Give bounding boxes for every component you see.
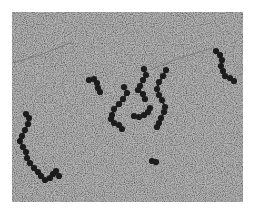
nucleosome-bead: [17, 138, 23, 144]
nucleosome-bead: [56, 173, 62, 179]
nucleosome-bead: [124, 90, 130, 96]
nucleosome-bead: [159, 97, 165, 103]
nucleosome-bead: [219, 57, 225, 63]
micrograph-image: [0, 0, 253, 210]
nucleosome-bead: [25, 121, 31, 127]
nucleosome-bead: [27, 160, 33, 166]
nucleosome-bead: [141, 66, 147, 72]
specimen-background: [12, 12, 243, 202]
nucleosome-bead: [119, 126, 125, 132]
nucleosome-bead: [142, 96, 148, 102]
nucleosome-bead: [116, 101, 122, 107]
nucleosome-bead: [156, 79, 162, 85]
nucleosome-bead: [97, 89, 103, 95]
nucleosome-bead: [147, 105, 153, 111]
nucleosome-bead: [135, 87, 141, 93]
nucleosome-bead: [161, 109, 167, 115]
nucleosome-bead: [120, 96, 126, 102]
micrograph-frame: [0, 0, 253, 210]
nucleosome-bead: [163, 67, 169, 73]
nucleosome-bead: [111, 106, 117, 112]
nucleosome-bead: [23, 149, 29, 155]
nucleosome-bead: [154, 86, 160, 92]
nucleosome-bead: [121, 84, 127, 90]
nucleosome-bead: [26, 115, 32, 121]
nucleosome-bead: [153, 159, 159, 165]
nucleosome-bead: [160, 73, 166, 79]
nucleosome-bead: [231, 78, 237, 84]
nucleosome-bead: [140, 77, 146, 83]
nucleosome-bead: [154, 124, 160, 130]
nucleosome-bead: [22, 127, 28, 133]
